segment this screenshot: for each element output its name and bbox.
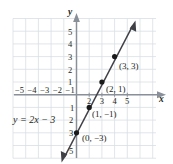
- data-point: [74, 130, 79, 135]
- x-tick-neg-5: −5: [15, 86, 24, 95]
- equation-label: y = 2x − 3: [13, 115, 55, 125]
- x-axis-label: x: [159, 95, 164, 105]
- point-label-0-neg3: (0, −3): [82, 134, 107, 143]
- x-tick-5: 5: [125, 97, 129, 106]
- point-label-1-neg1: (1, −1): [92, 110, 117, 119]
- x-tick-4: 4: [112, 97, 116, 106]
- point-label-2-1: (2, 1): [106, 85, 126, 94]
- x-tick-2: 2: [87, 97, 91, 106]
- y-tick-neg-5: 5: [69, 147, 73, 156]
- coordinate-graph-figure: y x 5 4 3 2 1 1 2 3 5 −5 −4 −3 −2 −1 2 3…: [0, 0, 173, 164]
- x-tick-neg-3: −3: [40, 86, 49, 95]
- y-axis-label: y: [68, 8, 72, 18]
- x-tick-3: 3: [100, 97, 104, 106]
- x-tick-neg-2: −2: [53, 86, 62, 95]
- x-tick-neg-1: −1: [66, 86, 75, 95]
- y-tick-neg-1: 1: [70, 104, 74, 113]
- y-tick-4: 4: [68, 40, 72, 49]
- point-label-3-3: (3, 3): [119, 62, 139, 71]
- y-tick-2: 2: [68, 66, 72, 75]
- data-point: [112, 54, 117, 59]
- y-tick-5: 5: [68, 28, 72, 37]
- data-point: [99, 79, 104, 84]
- x-tick-neg-4: −4: [28, 86, 37, 95]
- y-tick-neg-2: 2: [69, 116, 73, 125]
- y-tick-3: 3: [68, 53, 72, 62]
- y-tick-neg-3: 3: [69, 129, 73, 138]
